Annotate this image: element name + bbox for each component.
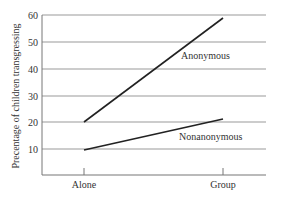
series-anonymous-line bbox=[84, 18, 223, 122]
line-chart: 60 50 40 30 20 10 Precentage of children… bbox=[0, 0, 281, 203]
series-nonanonymous-label: Nonanonymous bbox=[179, 131, 242, 142]
y-tick-30: 30 bbox=[28, 91, 38, 102]
y-tick-50: 50 bbox=[28, 37, 38, 48]
y-tick-10: 10 bbox=[28, 144, 38, 155]
y-tick-60: 60 bbox=[28, 10, 38, 21]
y-tick-20: 20 bbox=[28, 117, 38, 128]
gridlines bbox=[42, 15, 266, 149]
y-tick-40: 40 bbox=[28, 64, 38, 75]
x-label-alone: Alone bbox=[72, 179, 97, 190]
y-axis-label: Precentage of children transgressing bbox=[10, 23, 21, 168]
x-label-group: Group bbox=[210, 179, 236, 190]
series-anonymous-label: Anonymous bbox=[181, 50, 230, 61]
